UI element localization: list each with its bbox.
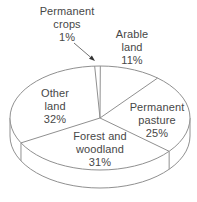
label-line: Permanent [130, 101, 185, 114]
label-line: land [41, 100, 69, 113]
slice-label-arable-land: Arable land 11% [116, 28, 148, 67]
slice-label-permanent-pasture: Permanent pasture 25% [130, 101, 185, 140]
label-line: woodland [73, 143, 127, 156]
label-line: pasture [130, 114, 185, 127]
leader-arrow-line [74, 43, 90, 57]
label-value: 32% [41, 113, 69, 126]
label-value: 11% [116, 54, 148, 67]
slice-label-other-land: Other land 32% [41, 87, 69, 126]
slice-label-forest-woodland: Forest and woodland 31% [73, 130, 127, 169]
label-value: 25% [130, 127, 185, 140]
label-value: 31% [73, 156, 127, 169]
pie-figure: Permanent crops 1% Arable land 11% Perma… [0, 0, 197, 202]
label-line: Forest and [73, 130, 127, 143]
label-line: land [116, 41, 148, 54]
label-line: crops [40, 18, 95, 31]
label-value: 1% [40, 31, 95, 44]
slice-label-permanent-crops: Permanent crops 1% [40, 5, 95, 44]
label-line: Arable [116, 28, 148, 41]
label-line: Permanent [40, 5, 95, 18]
label-line: Other [41, 87, 69, 100]
